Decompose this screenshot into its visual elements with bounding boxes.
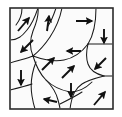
magnetic-domain-figure — [0, 0, 122, 117]
domain-structure-svg — [0, 0, 122, 117]
